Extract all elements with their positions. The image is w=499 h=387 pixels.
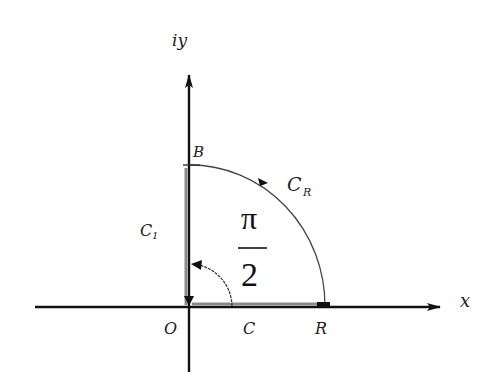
- svg-text:1: 1: [152, 230, 158, 241]
- point-b-label: B: [192, 143, 204, 161]
- arc-cr-label: C R: [287, 173, 311, 199]
- angle-arc-arrow-icon: [191, 260, 202, 270]
- contour-diagram: iy x O B R C C R C 1 π 2: [0, 0, 499, 387]
- svg-text:π: π: [241, 200, 257, 236]
- point-r-marker: [317, 302, 330, 308]
- segment-c1-label: C 1: [140, 221, 158, 241]
- angle-arc: [191, 260, 232, 306]
- origin-label: O: [164, 319, 177, 338]
- point-r-label: R: [314, 319, 327, 338]
- svg-text:C: C: [287, 173, 302, 195]
- svg-text:R: R: [302, 186, 311, 199]
- svg-text:C: C: [140, 221, 152, 240]
- svg-text:2: 2: [241, 256, 258, 293]
- angle-fraction-label: π 2: [238, 200, 267, 293]
- small-arc-label: C: [243, 319, 255, 338]
- x-axis-label: x: [460, 290, 470, 311]
- y-axis-label: iy: [172, 30, 187, 50]
